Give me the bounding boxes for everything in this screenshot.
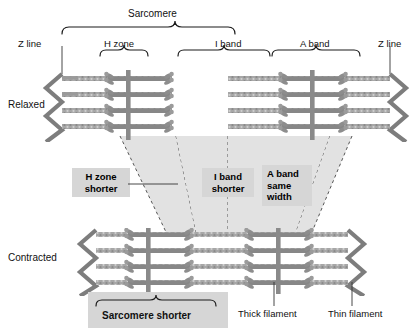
callout-h-zone-line1: H zone [77,171,125,183]
callout-h-zone-line2: shorter [77,183,125,195]
sarcomere-diagram: Sarcomere Z line H zone I band A band Z … [0,0,419,333]
callout-a-band-line3: width [267,191,307,203]
callout-a-band-line1: A band [267,168,307,180]
label-thin-filament: Thin filament [328,308,382,319]
myofibril-relaxed [0,70,419,142]
label-thick-filament: Thick filament [238,308,297,319]
top-brackets [0,0,419,78]
callout-h-zone-leader [128,180,186,194]
callout-a-band-line2: same [267,180,307,192]
callout-a-band-same-width: A band same width [262,165,312,206]
callout-h-zone-shorter: H zone shorter [72,168,130,197]
callout-i-band-shorter: I band shorter [202,168,254,197]
callout-i-band-line1: I band [207,171,249,183]
callout-i-band-line2: shorter [207,183,249,195]
